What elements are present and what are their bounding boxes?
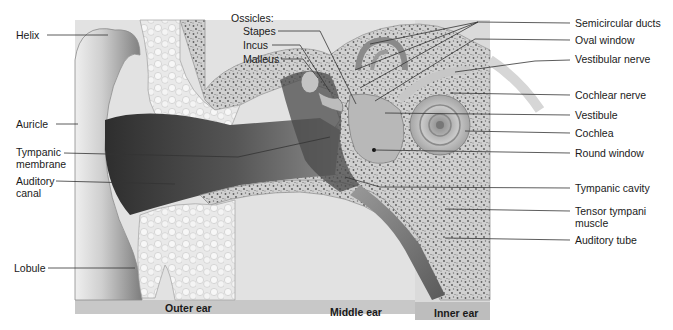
label-tensor-tympani-muscle: Tensor tympani muscle (575, 205, 646, 229)
label-round-window: Round window (575, 147, 644, 159)
lobule-tissue (138, 200, 235, 300)
label-stapes: Stapes (243, 25, 276, 37)
label-oval-window: Oval window (575, 34, 635, 46)
ear-anatomy-diagram: Helix Auricle Tympanic membrane Auditory… (0, 0, 673, 330)
label-tympanic-cavity: Tympanic cavity (575, 182, 650, 194)
section-middle-ear: Middle ear (330, 306, 382, 318)
label-auditory-canal: Auditory canal (16, 175, 55, 199)
label-vestibule: Vestibule (575, 109, 618, 121)
label-incus: Incus (243, 39, 268, 51)
label-ossicles-heading: Ossicles: (231, 12, 274, 24)
label-helix: Helix (16, 29, 39, 41)
section-outer-ear: Outer ear (165, 302, 212, 314)
label-auricle: Auricle (16, 118, 48, 130)
label-semicircular-ducts: Semicircular ducts (575, 17, 661, 29)
label-vestibular-nerve: Vestibular nerve (575, 53, 650, 65)
label-auditory-tube: Auditory tube (575, 234, 637, 246)
label-tympanic-membrane: Tympanic membrane (16, 146, 66, 170)
ear-illustration (0, 0, 673, 330)
label-cochlear-nerve: Cochlear nerve (575, 89, 646, 101)
label-cochlea: Cochlea (575, 127, 614, 139)
label-malleus: Malleus (243, 53, 279, 65)
section-inner-ear: Inner ear (434, 307, 478, 319)
malleus-shape (301, 71, 319, 93)
label-lobule: Lobule (14, 262, 46, 274)
